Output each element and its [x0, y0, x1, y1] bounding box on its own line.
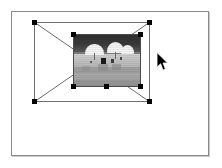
photo-handle-bottom-center[interactable] [104, 84, 109, 89]
arrow-cursor-icon [156, 52, 169, 72]
mouse-pointer-icon [156, 52, 169, 72]
photo-handle-bottom-left[interactable] [71, 84, 76, 89]
beach-photo-object[interactable] [73, 34, 141, 87]
resize-handle-top-right[interactable] [147, 20, 152, 25]
screenshot-root [0, 0, 222, 168]
photo-handle-bottom-right[interactable] [138, 84, 143, 89]
photo-handle-top-left[interactable] [71, 32, 76, 37]
photo-handle-top-right[interactable] [138, 32, 143, 37]
resize-handle-bottom-right[interactable] [147, 99, 152, 104]
document-canvas[interactable] [11, 11, 209, 156]
resize-handle-bottom-left[interactable] [32, 99, 37, 104]
resize-handle-top-left[interactable] [32, 20, 37, 25]
photo-grain-texture [74, 35, 140, 86]
photo-frame [73, 34, 141, 87]
